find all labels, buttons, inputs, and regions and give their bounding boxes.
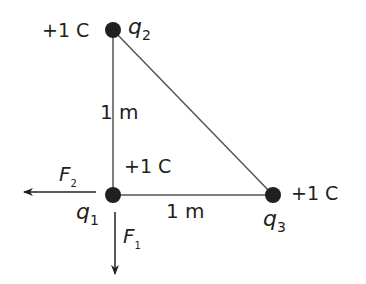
symbol-q2-letter: q: [128, 14, 142, 39]
force-label-f1: F1: [123, 226, 141, 246]
symbol-q3: q3: [263, 208, 286, 230]
force-f1-sub: 1: [135, 240, 141, 251]
edge-label-horizontal: 1 m: [166, 201, 205, 221]
symbol-q1: q1: [76, 201, 99, 223]
symbol-q2-sub: 2: [142, 27, 151, 43]
force-f2-letter: F: [59, 162, 71, 186]
force-label-f2: F2: [59, 164, 77, 184]
charge-label-q1: +1 C: [124, 157, 171, 176]
diagram-canvas: [0, 0, 366, 284]
charge-dot-q1: [105, 187, 121, 203]
symbol-q1-sub: 1: [90, 212, 99, 228]
charge-label-q3: +1 C: [291, 184, 338, 203]
charge-dot-q2: [105, 22, 121, 38]
force-f2-sub: 2: [71, 178, 77, 189]
edge-label-vertical: 1 m: [100, 102, 139, 122]
symbol-q3-sub: 3: [277, 219, 286, 235]
symbol-q3-letter: q: [263, 206, 277, 231]
force-f1-letter: F: [123, 224, 135, 248]
charge-dot-q3: [265, 187, 281, 203]
charge-label-q2: +1 C: [42, 21, 89, 40]
symbol-q1-letter: q: [76, 199, 90, 224]
symbol-q2: q2: [128, 16, 151, 38]
